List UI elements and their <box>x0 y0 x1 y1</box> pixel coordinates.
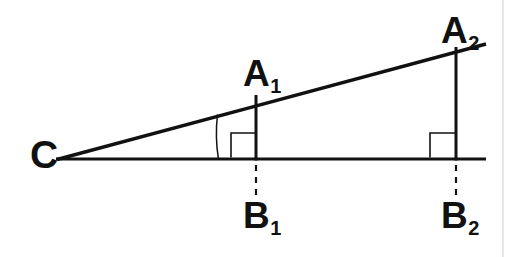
vertex-label-b1-letter: B <box>243 195 269 236</box>
geometry-figure-canvas: C A1 A2 B1 B2 <box>0 0 516 257</box>
vertex-label-b1-subscript: 1 <box>270 217 281 239</box>
vertex-label-b2-subscript: 2 <box>468 217 479 239</box>
vertex-label-c-letter: C <box>30 133 58 176</box>
vertex-label-a2-letter: A <box>441 10 467 51</box>
vertex-label-a2-subscript: 2 <box>468 32 479 54</box>
vertex-label-a1-letter: A <box>243 53 269 94</box>
vertex-label-a2: A2 <box>441 12 478 49</box>
vertex-label-b2: B2 <box>441 197 478 234</box>
vertex-label-b1: B1 <box>243 197 280 234</box>
vertex-label-a1: A1 <box>243 55 280 92</box>
vertex-label-c: C <box>30 135 58 174</box>
vertex-label-b2-letter: B <box>441 195 467 236</box>
vertex-label-a1-subscript: 1 <box>270 75 281 97</box>
